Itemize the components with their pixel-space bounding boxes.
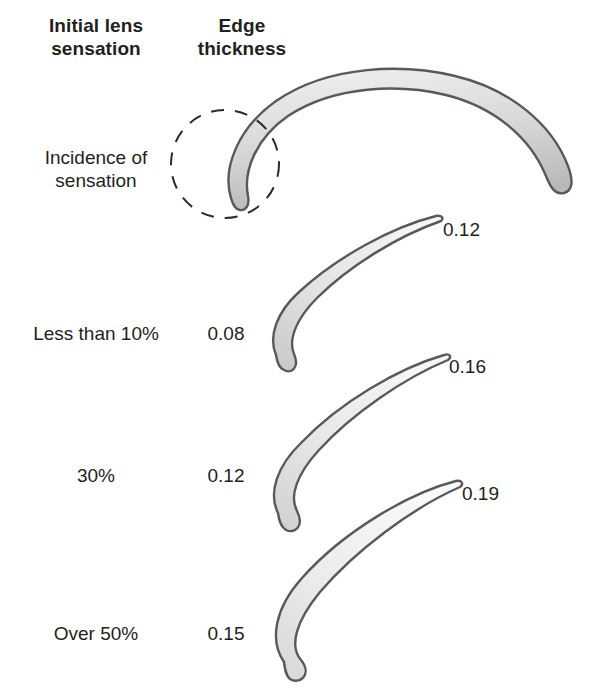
column-header-initial-lens-sensation: Initial lens sensation <box>16 14 176 60</box>
lens-arc-row1 <box>229 69 572 210</box>
outer-thickness-value-row4: 0.19 <box>462 482 552 505</box>
dashed-circle-highlight <box>171 110 279 218</box>
edge-thickness-value-row2: 0.08 <box>182 322 270 345</box>
column-header-edge-thickness: Edge thickness <box>178 14 306 60</box>
edge-thickness-value-row3: 0.12 <box>182 464 270 487</box>
lens-edge-thickness-figure: Initial lens sensation Edge thickness In… <box>0 0 597 688</box>
outer-thickness-value-row2: 0.12 <box>443 218 533 241</box>
row-label-over-50-percent: Over 50% <box>14 622 178 645</box>
edge-thickness-value-row4: 0.15 <box>182 622 270 645</box>
row-label-incidence-of-sensation: Incidence of sensation <box>14 146 178 192</box>
row-label-30-percent: 30% <box>14 464 178 487</box>
lens-arc-row2 <box>273 216 442 371</box>
outer-thickness-value-row3: 0.16 <box>449 355 539 378</box>
lens-arc-row4 <box>276 481 462 681</box>
row-label-less-than-10-percent: Less than 10% <box>14 322 178 345</box>
